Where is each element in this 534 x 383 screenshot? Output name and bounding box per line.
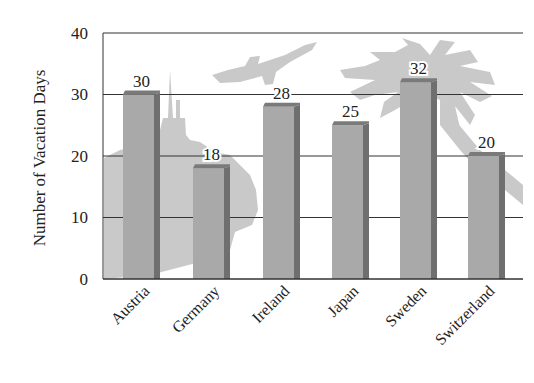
value-label: 28 [273, 84, 290, 103]
value-label: 25 [342, 102, 359, 121]
bar-austria [123, 91, 160, 280]
bar-germany [193, 164, 230, 279]
bar-japan [332, 121, 369, 279]
y-tick-10: 10 [71, 208, 88, 227]
x-axis-labels: AustriaGermanyIrelandJapanSwedenSwitzerl… [107, 282, 497, 348]
y-axis-ticks: 40 30 20 10 0 [71, 24, 88, 289]
category-label: Germany [169, 282, 224, 337]
value-label: 20 [478, 133, 495, 152]
value-label: 32 [410, 59, 427, 78]
category-label: Ireland [249, 282, 293, 326]
background-illustrations [104, 38, 523, 279]
airplane-icon [212, 42, 317, 85]
y-tick-40: 40 [71, 24, 88, 43]
bar-sweden [400, 78, 437, 279]
category-label: Japan [324, 282, 362, 320]
category-label: Switzerland [432, 282, 498, 348]
bar-chart: 40 30 20 10 0 Number of Vacation Days Au… [0, 0, 534, 383]
y-axis-label: Number of Vacation Days [30, 70, 49, 247]
bar-switzerland [468, 152, 505, 279]
bar-ireland [263, 103, 300, 279]
y-tick-30: 30 [71, 85, 88, 104]
value-label: 30 [133, 72, 150, 91]
category-label: Sweden [382, 282, 430, 330]
y-tick-20: 20 [71, 147, 88, 166]
value-label: 18 [203, 145, 220, 164]
y-tick-0: 0 [80, 270, 89, 289]
category-label: Austria [107, 282, 152, 327]
